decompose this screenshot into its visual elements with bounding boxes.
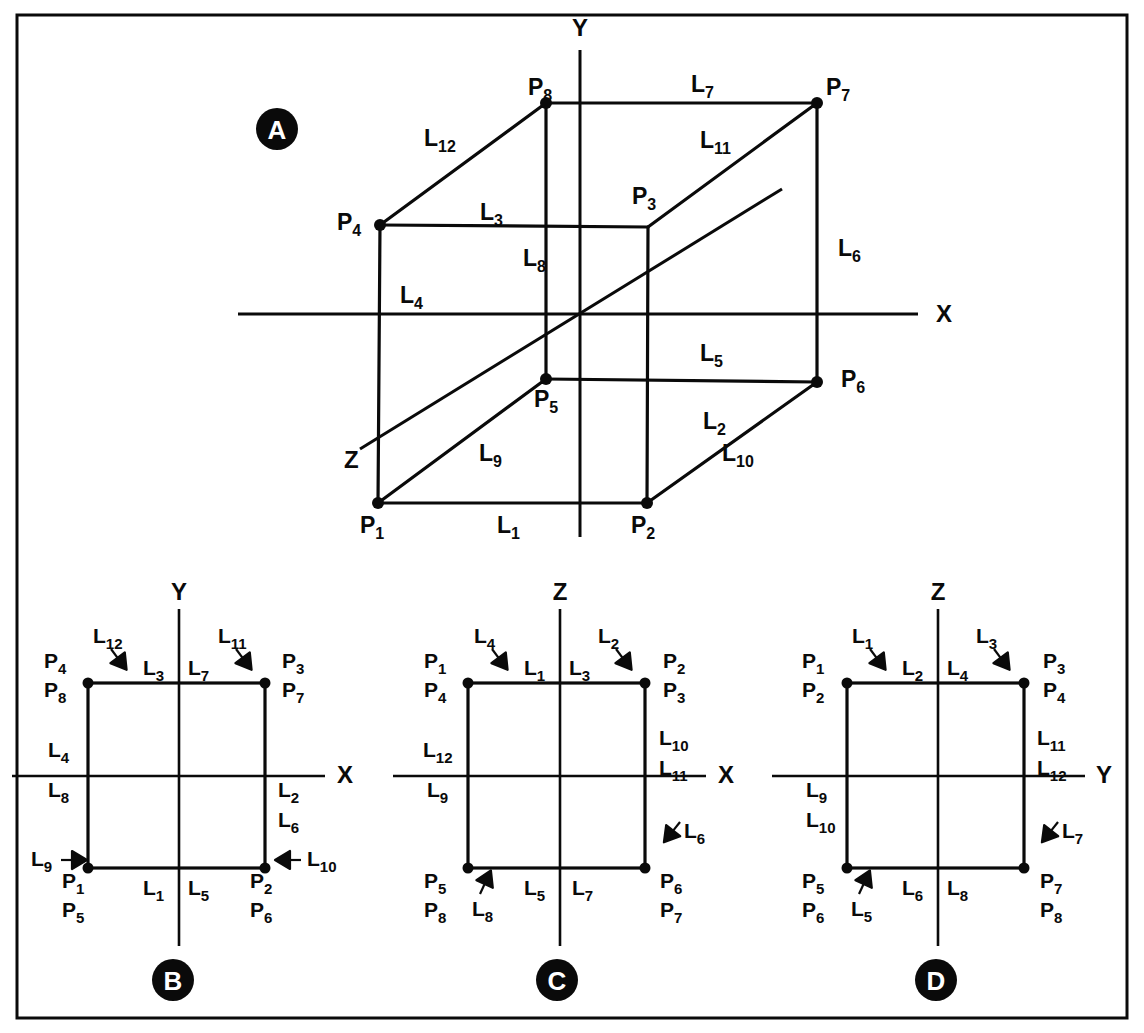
panel-badge-letter-d: D [927, 966, 946, 996]
panel-c-axis-label-vertical: Z [553, 578, 568, 605]
panel-b-corner-dot-1 [260, 678, 271, 689]
panel-a-axis-label-z: Z [344, 446, 359, 473]
panel-badge-b: B [152, 959, 194, 1001]
vertex-dot-p6 [811, 376, 823, 388]
vertex-dot-p2 [641, 497, 653, 509]
panel-c-corner-dot-2 [463, 863, 474, 874]
panel-c-corner-dot-3 [640, 863, 651, 874]
panel-badge-letter-a: A [268, 115, 287, 145]
panel-c-axis-label-horizontal: X [718, 761, 734, 788]
vertex-dot-p4 [374, 219, 386, 231]
panel-c-corner-dot-1 [640, 678, 651, 689]
panel-b-axis-label-vertical: Y [171, 578, 187, 605]
panel-badge-a: A [256, 108, 298, 150]
panel-badge-c: C [536, 959, 578, 1001]
technical-figure: P1P2P3P4P5P6P7P8L1L2L3L4L5L6L7L8L9L10L11… [0, 0, 1144, 1033]
panel-d-corner-dot-1 [1019, 678, 1030, 689]
edge-L2 [647, 227, 648, 503]
panel-b-axis-label-horizontal: X [337, 761, 353, 788]
panel-d-axis-label-vertical: Z [931, 578, 946, 605]
edge-L3 [380, 225, 648, 227]
panel-a-axis-label-x: X [936, 300, 952, 327]
edge-L4 [378, 225, 380, 503]
panel-b-corner-dot-0 [83, 678, 94, 689]
vertex-dot-p5 [540, 373, 552, 385]
panel-a-axis-label-y: Y [572, 14, 588, 41]
panel-d-corner-dot-0 [842, 678, 853, 689]
panel-d-corner-dot-3 [1019, 863, 1030, 874]
panel-d-axis-label-horizontal: Y [1096, 761, 1112, 788]
vertex-dot-p7 [811, 97, 823, 109]
panel-c-corner-dot-0 [463, 678, 474, 689]
vertex-dot-p1 [372, 497, 384, 509]
panel-d-corner-dot-2 [842, 863, 853, 874]
panel-badge-d: D [915, 959, 957, 1001]
panel-b-corner-dot-2 [83, 863, 94, 874]
panel-badge-letter-b: B [164, 966, 183, 996]
panel-badge-letter-c: C [548, 966, 567, 996]
figure-canvas: P1P2P3P4P5P6P7P8L1L2L3L4L5L6L7L8L9L10L11… [0, 0, 1144, 1033]
